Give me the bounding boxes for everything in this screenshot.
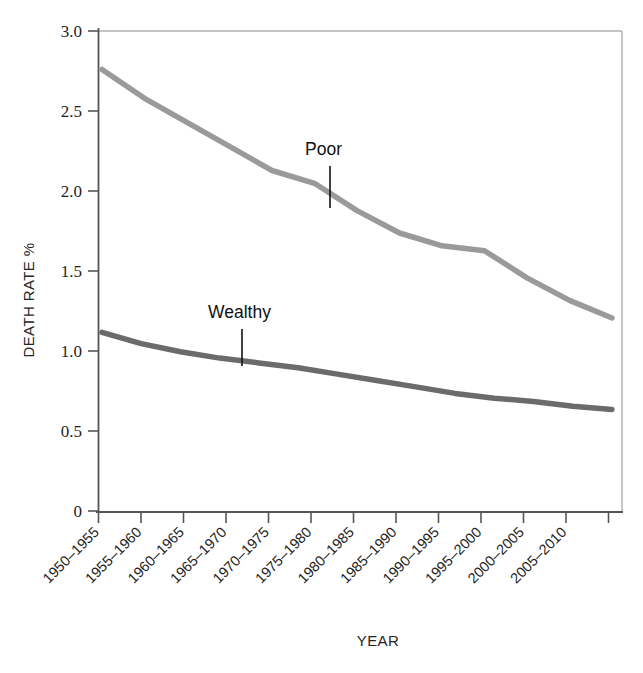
death-rate-line-chart: 3.0 2.5 2.0 1.5 1.0 0.5 0 DEATH RATE % 1… [0,0,643,673]
x-axis-title: YEAR [357,632,399,649]
series-line-poor [102,70,612,319]
y-tick-label-2.0: 2.0 [61,182,82,201]
y-axis [88,28,99,513]
y-tick-label-3.0: 3.0 [61,22,82,41]
y-tick-label-1.5: 1.5 [61,262,82,281]
annotation-poor-label: Poor [305,139,342,159]
annotation-wealthy-label: Wealthy [208,302,271,322]
y-tick-label-1.0: 1.0 [61,342,82,361]
y-tick-label-2.5: 2.5 [61,102,82,121]
y-axis-title: DEATH RATE % [20,242,37,357]
plot-frame [98,31,622,512]
series-line-wealthy [102,332,612,409]
x-axis [96,512,623,523]
y-tick-label-0: 0 [74,502,83,521]
y-tick-label-0.5: 0.5 [61,422,82,441]
chart-container: 3.0 2.5 2.0 1.5 1.0 0.5 0 DEATH RATE % 1… [0,0,643,673]
